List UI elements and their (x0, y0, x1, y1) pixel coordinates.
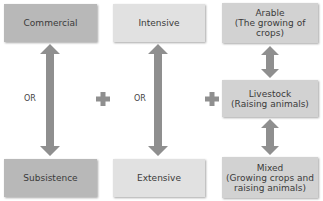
or-label: OR (134, 94, 146, 103)
livestock-box: Livestock (Raising animals) (222, 80, 318, 117)
mixed-box: Mixed (Growing crops and raising animals… (222, 157, 318, 198)
livestock-title: Livestock (249, 89, 291, 99)
subsistence-box: Subsistence (4, 159, 97, 197)
double-arrow-icon (148, 44, 168, 156)
arable-box: Arable (The growing of crops) (222, 3, 318, 43)
plus-icon (205, 92, 219, 106)
double-arrow-icon (261, 46, 279, 78)
double-arrow-icon (261, 119, 279, 155)
extensive-box: Extensive (113, 159, 205, 197)
livestock-subtitle: (Raising animals) (231, 99, 309, 109)
plus-icon (96, 92, 110, 106)
arable-title: Arable (255, 8, 284, 18)
subsistence-label: Subsistence (23, 173, 77, 183)
extensive-label: Extensive (137, 173, 181, 183)
mixed-subtitle: (Growing crops and raising animals) (223, 173, 317, 193)
intensive-box: Intensive (113, 4, 205, 42)
or-label: OR (24, 94, 36, 103)
mixed-title: Mixed (257, 163, 284, 173)
double-arrow-icon (40, 44, 60, 156)
commercial-box: Commercial (4, 4, 97, 42)
intensive-label: Intensive (138, 18, 179, 28)
commercial-label: Commercial (24, 18, 78, 28)
arable-subtitle: (The growing of crops) (230, 18, 310, 38)
